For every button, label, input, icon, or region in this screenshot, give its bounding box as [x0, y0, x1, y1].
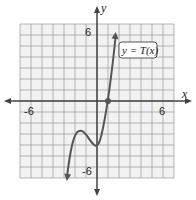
y-tick-6: 6 — [85, 26, 91, 38]
root-point — [105, 98, 111, 104]
x-tick-neg6: -6 — [24, 105, 34, 117]
x-tick-6: 6 — [159, 105, 165, 117]
x-axis-label: x — [181, 87, 188, 101]
function-label: y = T(x) — [121, 44, 158, 57]
graph: -6 6 6 -6 x y y = T(x) — [0, 0, 196, 200]
y-tick-neg6: -6 — [82, 165, 92, 177]
y-axis-label: y — [100, 1, 107, 15]
